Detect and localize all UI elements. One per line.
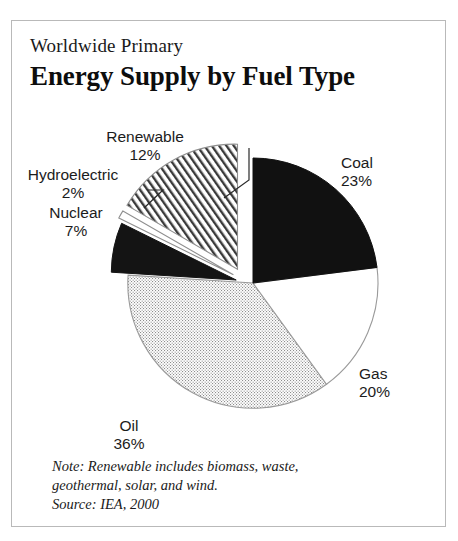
slice-label-hydroelectric-pct: 2% bbox=[3, 184, 143, 202]
slice-label-nuclear-name: Nuclear bbox=[49, 204, 102, 221]
slice-label-coal-pct: 23% bbox=[341, 172, 431, 190]
footnote-source: Source: IEA, 2000 bbox=[52, 495, 422, 514]
pie-chart: Renewable 12% Hydroelectric 2% Nuclear 7… bbox=[11, 20, 446, 527]
slice-label-coal-name: Coal bbox=[341, 154, 373, 171]
footnote-note-line-2: geothermal, solar, and wind. bbox=[52, 476, 422, 495]
pie-chart-svg bbox=[11, 20, 446, 527]
slice-label-nuclear: Nuclear 7% bbox=[21, 204, 131, 240]
slice-label-nuclear-pct: 7% bbox=[21, 222, 131, 240]
slice-label-gas-name: Gas bbox=[359, 365, 387, 382]
slice-label-renewable-pct: 12% bbox=[65, 146, 225, 164]
slice-label-oil: Oil 36% bbox=[84, 417, 174, 453]
slice-label-coal: Coal 23% bbox=[341, 154, 431, 190]
slice-label-hydroelectric: Hydroelectric 2% bbox=[3, 166, 143, 202]
slice-label-gas-pct: 20% bbox=[359, 383, 439, 401]
slice-label-gas: Gas 20% bbox=[359, 365, 439, 401]
slice-label-oil-name: Oil bbox=[120, 417, 139, 434]
figure-root: Worldwide Primary Energy Supply by Fuel … bbox=[0, 0, 458, 541]
slice-label-hydroelectric-name: Hydroelectric bbox=[28, 166, 118, 183]
slice-label-renewable-name: Renewable bbox=[106, 128, 184, 145]
footnote-note-line-1: Note: Renewable includes biomass, waste, bbox=[52, 457, 422, 476]
slice-label-renewable: Renewable 12% bbox=[65, 128, 225, 164]
figure-footnote: Note: Renewable includes biomass, waste,… bbox=[52, 457, 422, 514]
slice-label-oil-pct: 36% bbox=[84, 435, 174, 453]
